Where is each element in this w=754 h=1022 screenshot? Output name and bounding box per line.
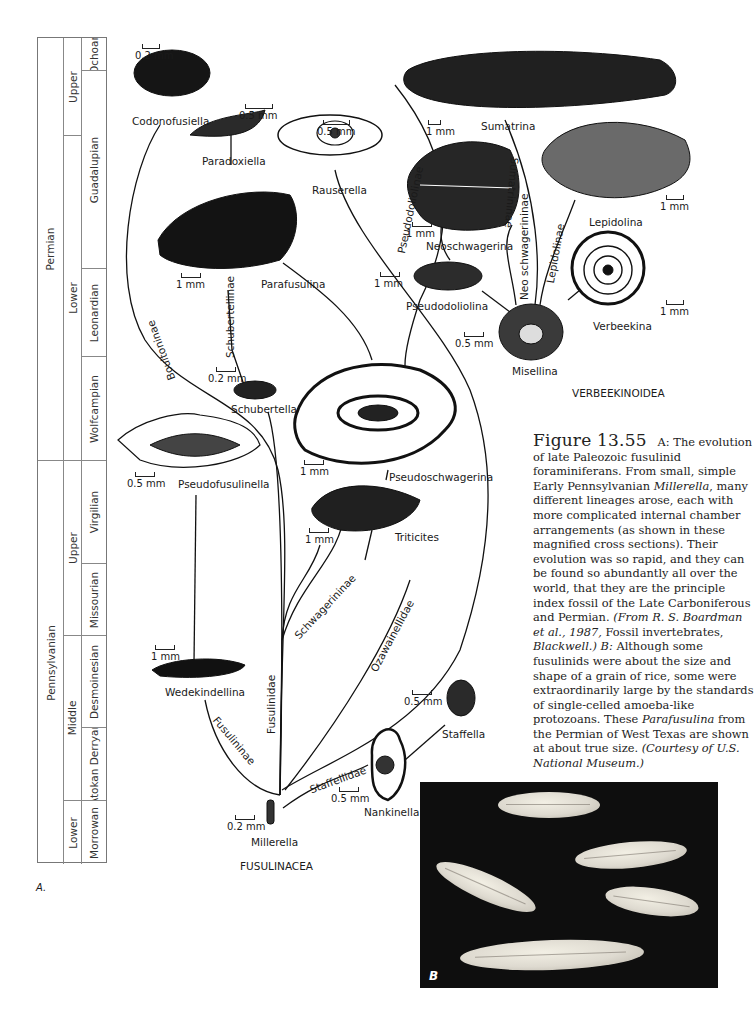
taxon-lepidolina: Lepidolina [589,216,643,228]
parafusulina-specimen-1 [498,792,600,818]
lineage-neoschwagerininae: Neo schwagerininae [519,194,530,300]
taxon-neoschwagerina: Neoschwagerina [426,240,513,252]
superfamily-fusulinacea: FUSULINACEA [240,860,313,872]
scale-bar-paradoxiella: 0.5 mm [239,104,278,121]
taxon-pseudoschwagerina: Pseudoschwagerina [389,471,493,483]
figure-caption: Figure 13.55 A: The evolution of late Pa… [533,433,754,771]
taxon-codonofusiella: Codonofusiella [132,115,209,127]
scale-bar-rauserella: 0.5 mm [317,120,356,137]
taxon-pseudofusulinella: Pseudofusulinella [178,478,270,490]
scale-bar-triticites: 1 mm [305,528,334,545]
taxon-rauserella: Rauserella [312,184,367,196]
taxon-paradoxiella: Paradoxiella [202,155,266,167]
parafusulina-specimen-5 [460,937,645,973]
caption-source-publisher: Blackwell.) [533,639,597,653]
caption-taxon-millerella: Millerella [654,479,710,493]
scale-bar-misellina: 0.5 mm [455,332,494,349]
scale-bar-pseudofusulinella: 0.5 mm [127,472,166,489]
scale-bar-schubertella: 0.2 mm [208,367,247,384]
scale-bar-codonofusiella: 0.2 mm [135,44,174,61]
panel-b-label: B [429,969,438,983]
scale-bar-lepidolina: 1 mm [660,195,689,212]
scale-bar-pseudodoliolina: 1 mm [374,272,403,289]
taxon-schubertella: Schubertella [231,403,297,415]
taxon-triticites: Triticites [395,531,439,543]
lineage-fusulinidae: Fusulinidae [265,675,277,734]
scale-bar-verbeekina: 1 mm [660,300,689,317]
figure-number: Figure 13.55 [533,430,647,450]
parafusulina-specimen-2 [574,837,688,873]
parafusulina-specimen-4 [604,882,701,922]
superfamily-verbeekinoidea: VERBEEKINOIDEA [572,387,665,399]
scale-bar-sumatrina: 1 mm [426,120,455,137]
parafusulina-specimen-3 [431,853,540,921]
taxon-nankinella: Nankinella [364,806,419,818]
caption-taxon-parafusulina: Parafusulina [642,712,714,726]
taxon-staffella: Staffella [442,728,485,740]
scale-bar-staffella: 0.5 mm [404,690,443,707]
caption-part-b-label: B: [601,639,613,653]
scale-bar-wedekindellina: 1 mm [151,645,180,662]
caption-part-a-body: , many different lineages arose, each wi… [533,479,751,624]
scale-bar-parafusulina: 1 mm [176,273,205,290]
scale-bar-pseudoschwagerina: 1 mm [300,460,329,477]
taxon-wedekindellina: Wedekindellina [165,686,245,698]
taxon-misellina: Misellina [512,365,558,377]
taxon-parafusulina: Parafusulina [261,278,325,290]
scale-bar-nankinella: 0.5 mm [331,787,370,804]
lineage-schubertellinae: Schubertellinae [224,276,236,358]
photo-panel-b: B [420,782,718,988]
taxon-verbeekina: Verbeekina [593,320,652,332]
taxon-sumatrina: Sumatrina [481,120,535,132]
taxon-millerella: Millerella [251,836,298,848]
taxon-pseudodoliolina: Pseudodoliolina [406,300,488,312]
caption-source-title: Fossil invertebrates, [605,625,723,639]
scale-bar-millerella: 0.2 mm [227,815,266,832]
